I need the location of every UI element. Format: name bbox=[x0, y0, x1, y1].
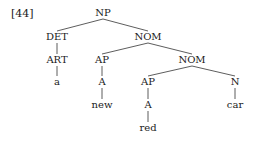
tree-node-nom2: NOM bbox=[178, 55, 205, 65]
tree-node-n: N bbox=[231, 77, 240, 87]
tree-edge bbox=[192, 66, 235, 76]
tree-node-car: car bbox=[227, 100, 243, 110]
tree-node-new: new bbox=[92, 100, 113, 110]
tree-edges bbox=[0, 0, 255, 143]
tree-node-a_word: a bbox=[54, 77, 60, 87]
tree-edge bbox=[57, 19, 103, 31]
tree-node-det: DET bbox=[46, 32, 68, 42]
tree-node-a2: A bbox=[144, 100, 151, 110]
tree-edge bbox=[103, 19, 148, 31]
tree-node-art: ART bbox=[46, 55, 67, 65]
tree-node-a1: A bbox=[98, 77, 105, 87]
tree-edge bbox=[102, 43, 148, 54]
tree-node-ap1: AP bbox=[95, 55, 109, 65]
tree-node-ap2: AP bbox=[141, 77, 155, 87]
tree-edge bbox=[148, 43, 192, 54]
tree-node-np: NP bbox=[95, 8, 110, 18]
tree-edge bbox=[148, 66, 192, 76]
tree-node-nom1: NOM bbox=[134, 32, 161, 42]
tree-node-red: red bbox=[139, 123, 156, 133]
